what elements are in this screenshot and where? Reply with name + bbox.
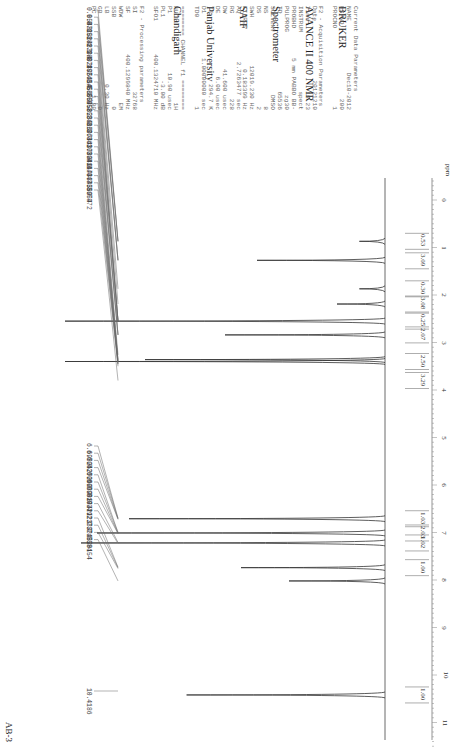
integral-value: 3.29	[419, 374, 427, 386]
axis-tick-label: 2	[440, 293, 448, 297]
integral-value: 0.25	[419, 314, 427, 326]
spectrum-peak	[337, 301, 385, 307]
axis-tick-label: 11	[441, 719, 449, 726]
spectrum-peak	[225, 332, 385, 338]
peak-label: 8.0154	[85, 537, 92, 560]
axis-tick-label: 3	[440, 341, 448, 345]
peak-label: 3.7972	[85, 187, 92, 210]
axis-tick-label: 5	[440, 436, 448, 440]
spectrum-peak	[81, 540, 385, 546]
spectrum-peak	[257, 257, 385, 263]
spectrum-peak	[187, 692, 385, 698]
axis-tick-label: 6	[440, 483, 448, 487]
integral-value: 1.02	[419, 536, 427, 548]
integral-value: 0.53	[419, 234, 427, 246]
axis-tick-label: 9	[440, 626, 448, 630]
peak-label: 10.4186	[85, 688, 92, 714]
axis-unit-label: ppm	[444, 164, 452, 176]
integral-value: 1.00	[419, 688, 427, 700]
integral-value: 1.03	[419, 512, 427, 524]
axis-tick-label: 4	[440, 388, 448, 392]
integral-value: 2.50	[419, 355, 427, 367]
integral-value: 3.08	[419, 297, 427, 309]
integral-value: 3.09	[419, 254, 427, 266]
spectrum-peak	[97, 530, 385, 536]
axis-tick-label: 7	[440, 531, 448, 535]
spectrum-peak	[289, 578, 385, 584]
integral-value: 0.30	[419, 282, 427, 294]
spectrum-peak	[359, 286, 385, 292]
integral-value: 1.00	[419, 561, 427, 573]
integral-value: 2.07	[419, 328, 427, 340]
axis-tick-label: 8	[440, 578, 448, 582]
axis-tick-label: 10	[442, 672, 450, 679]
axis-tick-label: 0	[440, 198, 448, 202]
spectrum-peak	[359, 238, 385, 244]
spectrum-peak	[241, 565, 385, 571]
axis-tick-label: 1	[440, 246, 448, 250]
nmr-spectrum	[0, 0, 467, 749]
spectrum-peak	[129, 516, 385, 522]
sample-label: AB-3	[3, 722, 14, 742]
